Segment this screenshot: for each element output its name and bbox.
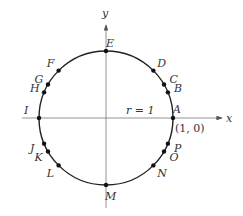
point-k xyxy=(46,149,50,153)
point-f xyxy=(56,68,60,72)
radius-label: r = 1 xyxy=(126,104,154,117)
point-m xyxy=(104,183,108,187)
point-label-c: C xyxy=(170,73,179,86)
point-l xyxy=(56,163,60,167)
point-label-p: P xyxy=(173,142,182,155)
point-p xyxy=(166,141,170,145)
point-label-d: D xyxy=(156,57,166,70)
point-label-i: I xyxy=(23,104,29,117)
point-label-n: N xyxy=(156,167,167,180)
point-label-e: E xyxy=(105,37,114,50)
point-c xyxy=(162,82,166,86)
y-axis-label: y xyxy=(101,7,109,20)
unit-circle-diagram: ABCDEFGHIJKLMNOP x y r = 1 (1, 0) xyxy=(0,0,243,216)
x-axis-label: x xyxy=(226,112,233,125)
point-label-a: A xyxy=(172,103,181,116)
point-label-m: M xyxy=(104,190,117,203)
point-label-f: F xyxy=(46,57,55,70)
point-h xyxy=(42,90,46,94)
point-label-k: K xyxy=(33,151,43,164)
point-d xyxy=(151,68,155,72)
point-label-l: L xyxy=(46,167,54,180)
point-n xyxy=(151,163,155,167)
point-j xyxy=(42,141,46,145)
point-a xyxy=(171,116,175,120)
point-o xyxy=(162,149,166,153)
point-g xyxy=(46,82,50,86)
point-label-h: H xyxy=(29,82,40,95)
point-a-coordinate: (1, 0) xyxy=(175,122,205,135)
point-b xyxy=(166,90,170,94)
point-i xyxy=(37,116,41,120)
